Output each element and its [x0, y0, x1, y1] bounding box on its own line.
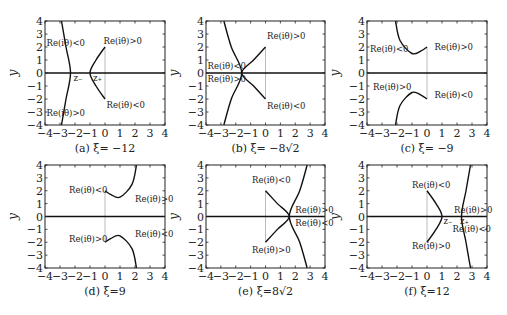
- y-axis-label: y: [167, 69, 181, 77]
- x-tick-label: 2: [292, 127, 299, 140]
- y-tick-label: −1: [349, 223, 365, 236]
- y-tick-label: −4: [349, 119, 365, 132]
- x-tick-label: 4: [162, 270, 169, 283]
- region-label: Re(iθ)<0: [107, 100, 145, 110]
- y-tick-label: 1: [36, 198, 43, 211]
- x-tick-label: 4: [484, 270, 491, 283]
- y-tick-label: 0: [358, 67, 365, 80]
- panel-caption: (a) ξ= −12: [75, 142, 136, 155]
- y-tick-label: −4: [349, 262, 365, 275]
- region-label: Re(iθ)<0: [207, 61, 245, 71]
- x-tick-label: −1: [404, 270, 420, 283]
- panel-f: −4−3−2−101234−4−3−2−101234yRe(iθ)<0Re(iθ…: [328, 159, 492, 298]
- y-tick-label: 4: [36, 159, 43, 172]
- x-tick-label: 0: [262, 127, 269, 140]
- y-tick-label: 0: [197, 211, 204, 224]
- x-tick-label: 3: [307, 270, 314, 283]
- contour-curve: [396, 92, 428, 125]
- x-tick-label: 2: [132, 270, 139, 283]
- x-tick-label: −3: [213, 270, 229, 283]
- region-label: Re(iθ)<0: [252, 175, 290, 185]
- x-tick-label: −2: [389, 127, 405, 140]
- region-label: z₋: [444, 216, 453, 226]
- y-tick-label: −1: [188, 223, 204, 236]
- panel-caption: (b) ξ= −8√2: [231, 142, 299, 155]
- y-tick-label: 2: [197, 41, 204, 54]
- x-tick-label: 1: [117, 127, 124, 140]
- contour-curve: [105, 235, 137, 268]
- y-tick-label: −2: [349, 93, 365, 106]
- y-tick-label: −3: [27, 249, 43, 262]
- region-label: Re(iθ)>0: [267, 31, 305, 41]
- x-tick-label: 2: [292, 270, 299, 283]
- y-tick-label: −1: [27, 223, 43, 236]
- x-tick-label: 1: [439, 127, 446, 140]
- panel-b: −4−3−2−101234−4−3−2−101234yRe(iθ)>0Re(iθ…: [167, 15, 329, 155]
- y-axis-label: y: [328, 69, 342, 77]
- x-tick-label: 3: [307, 127, 314, 140]
- x-tick-label: −1: [82, 127, 98, 140]
- panel-a: −4−3−2−101234−4−3−2−101234yRe(iθ)<0Re(iθ…: [6, 15, 169, 155]
- x-tick-label: 1: [277, 127, 284, 140]
- x-tick-label: −2: [67, 127, 83, 140]
- y-tick-label: −3: [349, 249, 365, 262]
- y-tick-label: 4: [358, 159, 365, 172]
- panel-caption: (e) ξ=8√2: [238, 285, 293, 298]
- x-tick-label: 0: [102, 127, 109, 140]
- x-tick-label: −3: [52, 127, 68, 140]
- y-tick-label: 4: [197, 159, 204, 172]
- region-label: Re(iθ)>0: [454, 205, 492, 215]
- region-label: Re(iθ)>0: [47, 108, 85, 118]
- y-tick-label: −1: [27, 80, 43, 93]
- panel-c: −4−3−2−101234−4−3−2−101234yRe(iθ)<0Re(iθ…: [328, 15, 491, 155]
- y-tick-label: 4: [36, 15, 43, 28]
- y-tick-label: 2: [358, 41, 365, 54]
- x-tick-label: −3: [374, 270, 390, 283]
- region-label: Re(iθ)>0: [69, 234, 107, 244]
- x-tick-label: 4: [322, 270, 329, 283]
- y-tick-label: 3: [358, 28, 365, 41]
- y-tick-label: 4: [358, 15, 365, 28]
- y-tick-label: 2: [36, 41, 43, 54]
- y-tick-label: 1: [197, 198, 204, 211]
- region-label: Re(iθ)<0: [267, 101, 305, 111]
- y-tick-label: −3: [27, 106, 43, 119]
- y-tick-label: 1: [358, 198, 365, 211]
- x-tick-label: 2: [454, 270, 461, 283]
- x-tick-label: −3: [374, 127, 390, 140]
- region-label: Re(iθ)>0: [207, 74, 245, 84]
- y-tick-label: −2: [27, 236, 43, 249]
- x-tick-label: −2: [228, 270, 244, 283]
- y-tick-label: −1: [349, 80, 365, 93]
- region-label: Re(iθ)>0: [104, 36, 142, 46]
- x-tick-label: 3: [469, 270, 476, 283]
- x-tick-label: 3: [147, 270, 154, 283]
- x-tick-label: 0: [262, 270, 269, 283]
- region-label: Re(iθ)<0: [69, 185, 107, 195]
- region-label: Re(iθ)>0: [412, 241, 450, 251]
- y-tick-label: −4: [188, 262, 204, 275]
- y-tick-label: 3: [358, 172, 365, 185]
- region-label: Re(iθ)<0: [435, 90, 473, 100]
- x-tick-label: 0: [424, 127, 431, 140]
- region-label: Re(iθ)>0: [135, 194, 173, 204]
- y-tick-label: 0: [358, 211, 365, 224]
- x-tick-label: 1: [277, 270, 284, 283]
- y-axis-label: y: [328, 213, 342, 221]
- x-tick-label: −1: [404, 127, 420, 140]
- region-label: Re(iθ)<0: [453, 224, 491, 234]
- x-tick-label: 2: [454, 127, 461, 140]
- x-tick-label: 3: [147, 127, 154, 140]
- x-tick-label: 2: [132, 127, 139, 140]
- x-tick-label: −3: [213, 127, 229, 140]
- y-tick-label: −2: [188, 236, 204, 249]
- y-tick-label: −3: [188, 106, 204, 119]
- x-tick-label: 4: [322, 127, 329, 140]
- region-label: Re(iθ)<0: [412, 180, 450, 190]
- y-tick-label: 1: [36, 54, 43, 67]
- y-tick-label: 3: [197, 28, 204, 41]
- y-tick-label: 1: [197, 54, 204, 67]
- x-tick-label: 0: [424, 270, 431, 283]
- x-tick-label: 0: [102, 270, 109, 283]
- y-tick-label: 3: [36, 28, 43, 41]
